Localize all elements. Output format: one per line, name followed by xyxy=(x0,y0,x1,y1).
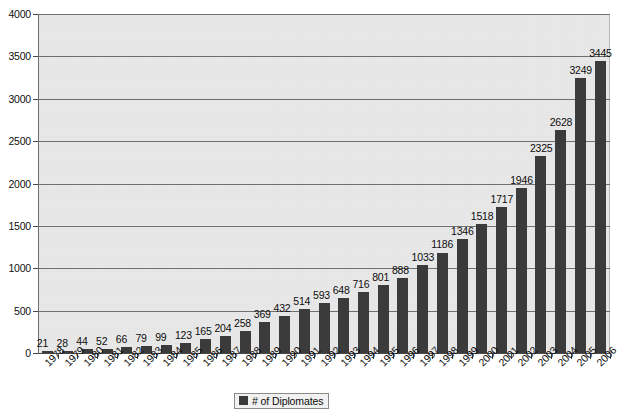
bar xyxy=(496,207,507,353)
bar xyxy=(555,130,566,353)
bar-value-label: 21 xyxy=(37,337,48,349)
y-axis-tick-label: 3000 xyxy=(0,93,31,105)
legend-swatch-icon xyxy=(239,396,248,405)
bar xyxy=(437,253,448,354)
bar-value-label: 716 xyxy=(352,278,369,290)
bar-value-label: 648 xyxy=(333,284,350,296)
bar-value-label: 99 xyxy=(155,331,166,343)
bar-value-label: 432 xyxy=(274,302,291,314)
y-axis-tick-labels: 05001000150020002500300035004000 xyxy=(0,0,34,415)
bar-value-label: 1033 xyxy=(412,251,435,263)
y-axis-tick-label: 2000 xyxy=(0,178,31,190)
y-axis-tick-label: 500 xyxy=(0,305,31,317)
y-axis-tick-label: 1500 xyxy=(0,220,31,232)
bar-value-label: 1346 xyxy=(451,225,474,237)
y-axis-tick-label: 1000 xyxy=(0,262,31,274)
bar xyxy=(457,239,468,353)
y-axis-tick-label: 2500 xyxy=(0,135,31,147)
bar-value-label: 79 xyxy=(135,332,146,344)
bar xyxy=(299,309,310,353)
bar-chart: 05001000150020002500300035004000 2128445… xyxy=(0,0,625,415)
y-axis-tick-label: 0 xyxy=(0,347,31,359)
bar-value-label: 1186 xyxy=(431,238,453,250)
bar-value-label: 204 xyxy=(214,322,231,334)
bar xyxy=(319,303,330,353)
y-axis-tick-label: 3500 xyxy=(0,50,31,62)
bar xyxy=(397,278,408,353)
bar-value-label: 3445 xyxy=(589,47,612,59)
bar xyxy=(358,292,369,353)
bar xyxy=(516,188,527,353)
bar xyxy=(535,156,546,353)
bar-value-label: 1518 xyxy=(471,210,494,222)
bar-value-label: 123 xyxy=(175,329,192,341)
bar-value-label: 593 xyxy=(313,289,330,301)
bar-value-label: 165 xyxy=(195,325,212,337)
bar-value-label: 258 xyxy=(234,317,251,329)
bar-value-label: 369 xyxy=(254,308,271,320)
legend-label: # of Diplomates xyxy=(252,395,323,407)
bar-value-label: 3249 xyxy=(569,64,592,76)
bar-value-label: 888 xyxy=(392,264,409,276)
bar-value-label: 1946 xyxy=(510,174,533,186)
bar xyxy=(378,285,389,353)
bar-value-label: 514 xyxy=(293,295,310,307)
bar-value-label: 1717 xyxy=(491,193,514,205)
y-axis-tick xyxy=(33,353,38,354)
bar-value-label: 2325 xyxy=(530,142,553,154)
bar xyxy=(279,316,290,353)
bar-value-label: 2628 xyxy=(550,116,573,128)
bar xyxy=(595,61,606,353)
bar xyxy=(575,78,586,353)
chart-legend: # of Diplomates xyxy=(234,393,329,409)
y-axis-tick-label: 4000 xyxy=(0,8,31,20)
bar xyxy=(417,265,428,353)
bar xyxy=(476,224,487,353)
bar xyxy=(338,298,349,353)
bar-value-label: 801 xyxy=(372,271,389,283)
